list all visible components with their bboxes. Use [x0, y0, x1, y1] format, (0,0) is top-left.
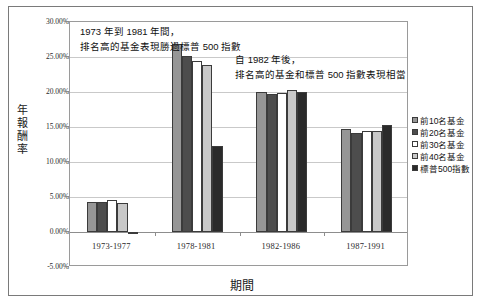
bar: [372, 131, 382, 233]
bar: [256, 92, 266, 232]
bar: [267, 94, 277, 232]
legend-item: 前20名基金: [412, 126, 476, 138]
legend-label: 前20名基金: [420, 126, 465, 138]
chart-figure: 年報酬率 30.00%25.00%20.00%15.00%10.00%5.00%…: [0, 0, 483, 304]
y-axis-tick-label: 25.00%: [23, 52, 69, 61]
bar: [351, 133, 361, 232]
y-axis-tick-label: 20.00%: [23, 87, 69, 96]
legend-label: 前30名基金: [420, 138, 465, 150]
bar: [87, 202, 97, 232]
bar: [182, 56, 192, 232]
legend-swatch-icon: [412, 141, 418, 147]
legend-swatch-icon: [412, 153, 418, 159]
bar: [202, 65, 212, 232]
legend-swatch-icon: [412, 129, 418, 135]
y-axis-tick-label: 10.00%: [23, 157, 69, 166]
bar: [382, 125, 392, 232]
legend-label: 前10名基金: [420, 114, 465, 126]
legend-item: 前30名基金: [412, 138, 476, 150]
y-axis-tick-mark: [65, 266, 69, 267]
legend-swatch-icon: [412, 117, 418, 123]
bar: [297, 92, 307, 232]
bar: [117, 203, 127, 232]
bar: [172, 44, 182, 232]
y-axis-tick-label: -5.00%: [23, 262, 69, 271]
bar: [277, 93, 287, 232]
x-axis-title: 期間: [0, 276, 483, 293]
x-axis-tick-mark: [155, 232, 156, 236]
legend-item: 前40名基金: [412, 150, 476, 162]
legend-item: 前10名基金: [412, 114, 476, 126]
legend-label: 標普500指數: [420, 162, 470, 174]
annotation-post-1982: 自 1982 年後， 排名高的基金和標普 500 指數表現相當: [235, 52, 406, 82]
x-axis-tick-mark: [324, 232, 325, 236]
bar: [107, 200, 117, 232]
bar: [97, 202, 107, 232]
zero-axis-line: [70, 232, 407, 233]
y-axis-tick-label: 5.00%: [23, 192, 69, 201]
y-axis-tick-label: 30.00%: [23, 17, 69, 26]
bar: [287, 90, 297, 232]
legend-item: 標普500指數: [412, 162, 476, 174]
y-axis-tick-label: 15.00%: [23, 122, 69, 131]
gridline: [70, 92, 407, 93]
bar: [362, 131, 372, 232]
x-axis-category-label: 1973-1977: [69, 241, 154, 251]
chart-legend: 前10名基金前20名基金前30名基金前40名基金標普500指數: [412, 114, 476, 174]
legend-swatch-icon: [412, 165, 418, 171]
gridline: [70, 127, 407, 128]
y-axis-tick-labels: 30.00%25.00%20.00%15.00%10.00%5.00%0.00%…: [17, 21, 69, 266]
bar: [192, 61, 202, 233]
x-axis-tick-mark: [240, 232, 241, 236]
x-axis-category-label: 1982-1986: [239, 241, 324, 251]
annotation-pre-1982: 1973 年到 1981 年間， 排名高的基金表現勝過標普 500 指數: [80, 24, 241, 54]
x-axis-category-label: 1978-1981: [154, 241, 239, 251]
y-axis-tick-label: 0.00%: [23, 227, 69, 236]
x-axis-category-label: 1987-1991: [323, 241, 408, 251]
legend-label: 前40名基金: [420, 150, 465, 162]
bar: [212, 146, 222, 232]
bar: [341, 129, 351, 232]
bar: [128, 232, 138, 234]
